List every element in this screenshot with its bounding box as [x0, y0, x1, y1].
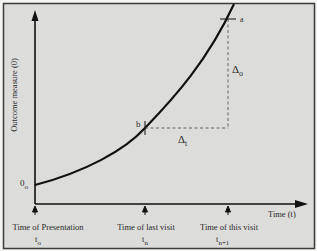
- point-b-label: b: [136, 119, 141, 129]
- time-marker-label-last-visit: Time of last visit: [117, 222, 175, 232]
- diagram-figure: a b Δo Δt 0o Outcome measure (0) Time (t…: [0, 0, 317, 251]
- point-a-label: a: [240, 15, 244, 24]
- time-marker-label-presentation: Time of Presentation: [13, 222, 85, 232]
- y-axis-label: Outcome measure (0): [9, 58, 19, 132]
- time-marker-label-this-visit: Time of this visit: [200, 222, 259, 232]
- x-axis-label: Time (t): [268, 209, 296, 219]
